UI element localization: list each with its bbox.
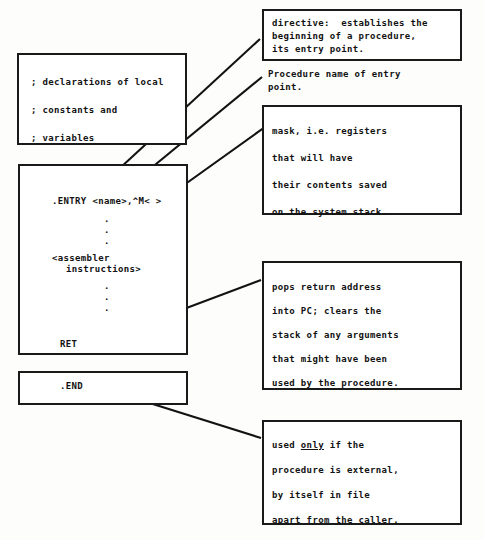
leader-mask-to-maskbox bbox=[177, 127, 265, 190]
note-mask-line-1: mask, i.e. registers bbox=[272, 120, 387, 142]
note-directive-line-2: beginning of a procedure, bbox=[272, 30, 416, 44]
declarations-line-2: ; constants and bbox=[31, 99, 118, 121]
procedure-dots-upper: ... bbox=[104, 214, 109, 247]
end-block bbox=[18, 371, 188, 405]
note-ret-line-4: that might have been bbox=[272, 348, 387, 370]
procedure-instructions-line-2: instructions> bbox=[66, 264, 141, 275]
declarations-line-3: ; variables bbox=[31, 127, 94, 149]
note-ret-line-2: into PC; clears the bbox=[272, 300, 382, 322]
procedure-instructions-line-1: <assembler bbox=[52, 253, 110, 264]
declarations-line-1: ; declarations of local bbox=[31, 71, 164, 93]
note-mask-line-2: that will have bbox=[272, 147, 353, 169]
note-mask-line-4: on the system stack. bbox=[272, 201, 387, 223]
note-end-line-1: used only if the bbox=[272, 434, 364, 456]
note-end-emphasis-only: only bbox=[301, 440, 324, 450]
note-end-line-1-post: if the bbox=[324, 440, 364, 450]
note-ret-line-3: stack of any arguments bbox=[272, 324, 399, 346]
note-directive-line-3: its entry point. bbox=[272, 43, 364, 57]
note-mask-line-3: their contents saved bbox=[272, 174, 387, 196]
note-ret-line-1: pops return address bbox=[272, 276, 382, 298]
diagram-canvas: ; declarations of local ; constants and … bbox=[0, 0, 484, 540]
note-end-line-3: by itself in file bbox=[272, 484, 370, 506]
note-ret-line-5: used by the procedure. bbox=[272, 372, 399, 394]
note-end-line-4: apart from the caller. bbox=[272, 509, 399, 531]
procedure-entry-line: .ENTRY <name>,^M< > bbox=[52, 196, 162, 207]
note-end-line-1-pre: used bbox=[272, 440, 301, 450]
procedure-dots-lower: ... bbox=[104, 281, 109, 314]
note-procedure-name-line-2: point. bbox=[268, 81, 303, 95]
end-block-line: .END bbox=[60, 381, 83, 392]
note-end-line-2: procedure is external, bbox=[272, 459, 399, 481]
note-directive-line-1: directive: establishes the bbox=[272, 17, 428, 31]
note-procedure-name-line-1: Procedure name of entry bbox=[268, 68, 401, 82]
procedure-ret-line: RET bbox=[60, 339, 77, 350]
